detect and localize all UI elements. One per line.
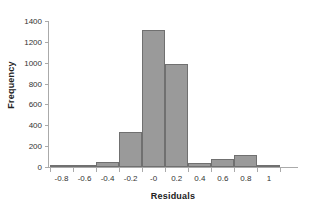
histogram-bar <box>165 64 188 167</box>
histogram-bar <box>257 165 280 167</box>
y-axis-tick-mark <box>45 146 48 147</box>
x-axis-tick-label: -0.6 <box>78 174 92 183</box>
x-axis-tick-label: 0.4 <box>194 174 205 183</box>
bars-layer <box>48 21 298 167</box>
y-axis-tick-label: 1200 <box>24 37 42 46</box>
y-axis-tick-mark <box>45 104 48 105</box>
x-axis-tick-mark <box>142 168 143 172</box>
x-axis-tick-label: -0.2 <box>124 174 138 183</box>
y-axis-tick-mark <box>45 63 48 64</box>
x-axis-tick-label: -0 <box>150 174 157 183</box>
x-axis-tick-mark <box>211 168 212 172</box>
x-axis-tick-labels: -0.8-0.6-0.4-0.2-00.20.40.60.81 <box>48 174 298 188</box>
histogram-bar <box>73 165 96 167</box>
x-axis-tick-mark <box>50 168 51 172</box>
y-axis-tick-label: 800 <box>29 79 42 88</box>
y-axis-tick-label: 0 <box>38 163 42 172</box>
x-axis-tick-mark <box>257 168 258 172</box>
x-axis-title: Residuals <box>48 191 298 201</box>
x-axis-tick-label: 0.6 <box>217 174 228 183</box>
x-axis-tick-label: -0.8 <box>55 174 69 183</box>
histogram-chart: Frequency 0200400600800100012001400 -0.8… <box>0 0 311 215</box>
x-axis-tick-mark <box>234 168 235 172</box>
x-axis-tick-label: 0.8 <box>240 174 251 183</box>
histogram-bar <box>211 159 234 167</box>
y-axis-title-label: Frequency <box>6 61 16 108</box>
x-axis-tick-mark <box>96 168 97 172</box>
histogram-bar <box>188 163 211 167</box>
y-axis-tick-mark <box>45 125 48 126</box>
histogram-bar <box>234 155 257 167</box>
y-axis-tick-label: 1400 <box>24 17 42 26</box>
y-axis-tick-label: 600 <box>29 100 42 109</box>
x-axis-tick-mark <box>188 168 189 172</box>
x-axis-tick-mark <box>280 168 281 172</box>
y-axis-tick-label: 400 <box>29 121 42 130</box>
x-axis-tick-label: -0.4 <box>101 174 115 183</box>
y-axis-tick-labels: 0200400600800100012001400 <box>18 21 45 167</box>
histogram-bar <box>119 132 142 167</box>
y-axis-tick-mark <box>45 84 48 85</box>
x-axis-line <box>48 167 298 168</box>
x-axis-tick-mark <box>165 168 166 172</box>
plot-area <box>48 21 298 167</box>
y-axis-tick-mark <box>45 21 48 22</box>
histogram-bar <box>142 30 165 167</box>
y-axis-tick-mark <box>45 42 48 43</box>
x-axis-tick-label: 0.2 <box>171 174 182 183</box>
y-axis-tick-label: 200 <box>29 142 42 151</box>
y-axis-tick-label: 1000 <box>24 58 42 67</box>
x-axis-tick-mark <box>73 168 74 172</box>
x-axis-tick-label: 1 <box>267 174 271 183</box>
y-axis-tick-mark <box>45 167 48 168</box>
histogram-bar <box>96 162 119 167</box>
x-axis-tick-mark <box>119 168 120 172</box>
histogram-bar <box>50 165 73 167</box>
